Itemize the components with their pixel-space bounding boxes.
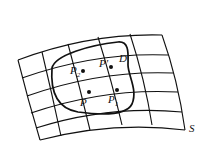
- point-p1: [115, 88, 119, 92]
- point-pprime: [109, 65, 113, 69]
- label-d: D: [119, 53, 127, 64]
- point-p2: [81, 69, 85, 73]
- surface-diagram: [0, 0, 206, 157]
- label-p2: P2: [70, 65, 80, 79]
- label-pprime: P': [99, 58, 108, 69]
- grid-line: [162, 35, 185, 130]
- point-p: [87, 90, 91, 94]
- grid-line: [130, 34, 152, 125]
- grid-line: [27, 73, 173, 96]
- label-s: S: [189, 123, 195, 134]
- label-p: P: [80, 97, 87, 108]
- grid-line: [18, 60, 40, 140]
- grid-line: [40, 127, 185, 140]
- label-p1: P1: [108, 94, 118, 108]
